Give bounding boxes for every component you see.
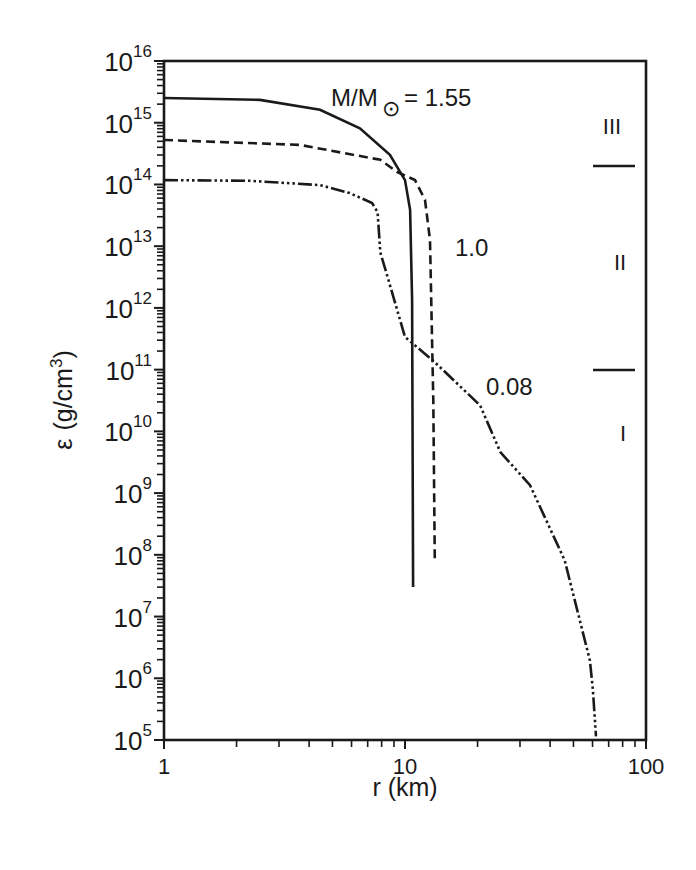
plot-frame (164, 61, 646, 740)
annotation-1-0: 1.0 (455, 234, 488, 261)
y-axis-minor-ticks (154, 61, 164, 740)
y-tick-label: 1013 (104, 227, 152, 262)
y-tick-label: 108 (114, 536, 152, 571)
y-tick-label: 1011 (105, 351, 152, 386)
y-tick-label: 109 (114, 474, 152, 509)
y-tick-label: 1014 (104, 165, 152, 200)
y-axis-title-close: ) (49, 350, 77, 358)
region-label-II: II (614, 250, 626, 275)
region-label-I: I (620, 421, 626, 446)
y-tick-label: 107 (114, 598, 152, 633)
x-tick-label: 100 (628, 754, 665, 779)
curve-mass-1-0 (164, 140, 435, 562)
annotation-0-08: 0.08 (486, 373, 533, 400)
x-axis-title: r (km) (372, 773, 437, 801)
y-tick-label: 1010 (104, 412, 152, 447)
curve-mass-0-08 (164, 180, 596, 736)
sun-symbol-icon: ⊙ (382, 96, 400, 121)
y-axis-tick-labels: 1051061071081091010101110121013101410151… (104, 42, 152, 756)
y-axis-title-units: (g/cm (49, 368, 77, 431)
annotation-mass-1-55: M/M (331, 84, 378, 111)
curves (164, 98, 596, 736)
svg-text:ε(g/cm3): ε(g/cm3) (47, 350, 77, 449)
curve-mass-1-55 (164, 98, 413, 587)
y-axis-title-exponent: 3 (47, 359, 66, 368)
region-label-III: III (603, 114, 621, 139)
y-tick-label: 1015 (104, 104, 152, 139)
y-tick-label: 105 (114, 721, 152, 756)
annotation-mass-value: = 1.55 (404, 84, 471, 111)
y-tick-label: 1012 (104, 289, 152, 324)
x-tick-label: 1 (158, 754, 170, 779)
x-axis-ticks (164, 740, 646, 749)
y-tick-label: 1016 (104, 42, 152, 77)
chart-figure: 1051061071081091010101110121013101410151… (0, 0, 696, 870)
y-tick-label: 106 (114, 659, 152, 694)
y-axis-title: ε(g/cm3) (47, 350, 77, 449)
y-axis-title-symbol: ε (49, 439, 77, 450)
